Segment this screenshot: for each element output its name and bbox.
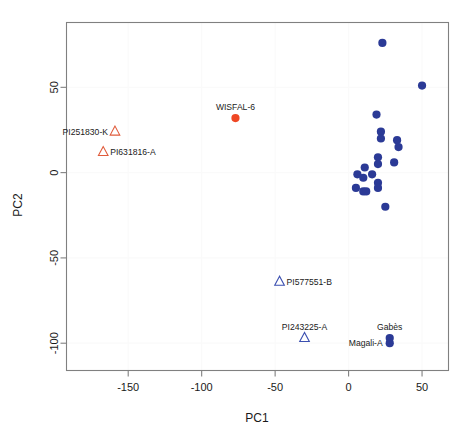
data-point-circle [377,134,385,142]
point-labels: PI251830-KPI631816-AWISFAL-6PI577551-BPI… [63,102,403,348]
y-tick-label: -50 [49,250,61,266]
point-label: WISFAL-6 [216,102,255,112]
gridlines [67,23,449,371]
data-point-circle [378,39,386,47]
y-axis-ticks: 500-50-100 [49,81,67,354]
data-point-circle [372,111,380,119]
data-points [98,39,426,347]
data-point-circle [393,136,401,144]
pca-scatter-chart: -150-100-50050 500-50-100 PI251830-KPI63… [0,0,470,442]
data-point-circle [374,160,382,168]
y-tick-label: 0 [49,170,61,176]
data-point-circle [359,174,367,182]
point-label: PI631816-A [110,147,156,157]
point-label: Gabès [377,322,402,332]
data-point-circle [362,187,370,195]
y-tick-label: 50 [49,81,61,93]
scatter-plot-figure: -150-100-50050 500-50-100 PI251830-KPI63… [0,0,470,442]
data-point-triangle [110,126,120,135]
x-tick-label: -100 [191,381,213,393]
data-point-circle [386,339,394,347]
data-point-triangle [98,147,108,156]
data-point-circle [390,158,398,166]
point-label: PI243225-A [282,322,328,332]
y-tick-label: -100 [49,332,61,354]
data-point-circle [231,114,239,122]
point-label: Magali-A [349,338,383,348]
plot-frame [67,23,449,371]
data-point-triangle [275,276,285,285]
data-point-circle [361,163,369,171]
data-point-circle [374,184,382,192]
x-tick-label: 50 [416,381,428,393]
point-label: PI251830-K [63,127,109,137]
data-point-circle [368,170,376,178]
x-tick-label: -150 [117,381,139,393]
x-tick-label: -50 [267,381,283,393]
x-tick-label: 0 [346,381,352,393]
data-point-circle [352,184,360,192]
data-point-circle [394,143,402,151]
point-label: PI577551-B [287,277,333,287]
data-point-circle [418,82,426,90]
plot-border [67,23,449,371]
x-axis-title: PC1 [245,411,269,425]
y-axis-title: PC2 [11,193,25,217]
data-point-triangle [300,333,310,342]
x-axis-ticks: -150-100-50050 [117,371,428,393]
data-point-circle [381,203,389,211]
